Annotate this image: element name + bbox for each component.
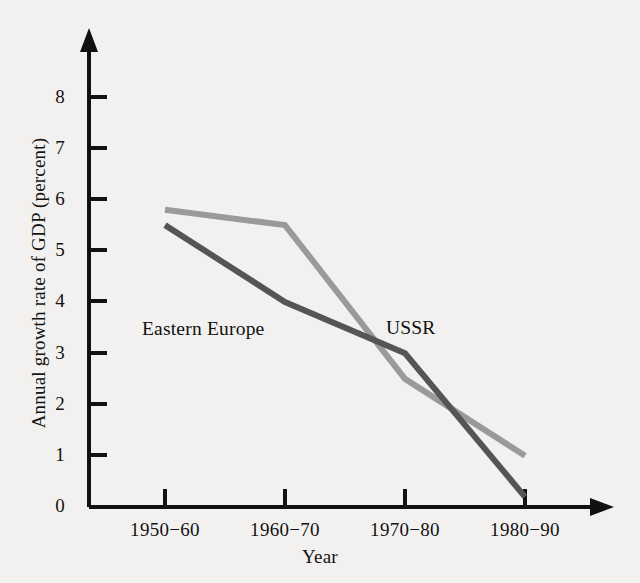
x-tick-label-1970-80: 1970−80 xyxy=(335,519,475,541)
y-tick-label-0: 0 xyxy=(41,495,65,517)
gdp-growth-line-chart: 8 7 6 5 4 3 2 1 0 1950−60 1960−70 1970−8… xyxy=(0,0,640,583)
y-tick-label-1: 1 xyxy=(41,444,65,466)
x-tick-label-1980-90: 1980−90 xyxy=(455,519,595,541)
x-axis-title: Year xyxy=(0,546,640,568)
x-tick-label-1950-60: 1950−60 xyxy=(95,519,235,541)
y-axis-title: Annual growth rate of GDP (percent) xyxy=(28,133,50,433)
series-label-eastern-europe: Eastern Europe xyxy=(142,318,264,340)
chart-plot-area xyxy=(0,0,640,583)
y-tick-label-8: 8 xyxy=(41,86,65,108)
y-axis xyxy=(80,28,98,507)
x-tick-label-1960-70: 1960−70 xyxy=(215,519,355,541)
x-axis-ticks xyxy=(165,489,525,507)
series-line-eastern-europe xyxy=(165,225,525,497)
y-axis-ticks xyxy=(89,97,107,455)
series-label-ussr: USSR xyxy=(386,317,436,339)
x-axis xyxy=(89,498,614,516)
